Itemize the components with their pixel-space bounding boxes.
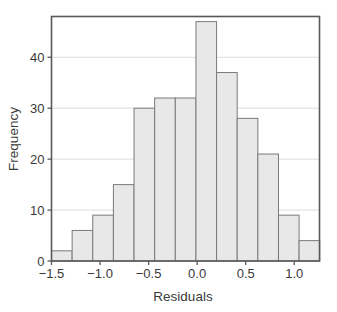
histogram-bar [72,230,93,261]
x-tick-label: 0.5 [237,266,255,281]
y-tick-label: 20 [30,152,44,167]
x-axis-title: Residuals [153,289,213,304]
y-tick-label: 10 [30,203,44,218]
histogram-figure: 010203040 −1.5−1.0−0.50.00.51.0 Residual… [0,0,337,312]
residuals-histogram-plot: 010203040 −1.5−1.0−0.50.00.51.0 Residual… [0,0,337,312]
histogram-bar [175,98,196,261]
histogram-bar [196,22,217,261]
histogram-bar [155,98,176,261]
x-tick-label: 0.0 [188,266,206,281]
x-tick-label: 1.0 [285,266,303,281]
histogram-bar [258,154,279,261]
x-tick-label: −1.0 [87,266,113,281]
histogram-bar [134,108,155,261]
histogram-bar [299,241,320,261]
histogram-bar [237,118,258,261]
y-tick-label: 40 [30,50,44,65]
y-tick-label: 30 [30,101,44,116]
y-axis-title: Frequency [6,107,21,171]
histogram-bar [113,185,134,261]
histogram-bar [52,251,73,261]
x-tick-label: −1.5 [39,266,65,281]
histogram-bar [217,73,238,261]
histogram-bar [93,215,114,261]
histogram-bar [278,215,299,261]
x-tick-label: −0.5 [136,266,162,281]
